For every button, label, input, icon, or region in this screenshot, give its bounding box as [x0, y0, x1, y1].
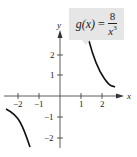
x-tick-label: 1 [79, 99, 84, 109]
function-lhs: g(x) [76, 17, 95, 32]
y-axis-arrow-icon [58, 30, 63, 38]
y-axis-label: y [56, 20, 61, 30]
curve-negative-branch [6, 109, 30, 147]
x-tick-label: 2 [100, 99, 105, 109]
numerator: 8 [108, 11, 118, 24]
fraction: 8 x3 [108, 11, 118, 37]
x-axis: x [4, 91, 131, 101]
denominator-exponent: 3 [113, 24, 117, 32]
label-pointer [82, 40, 90, 45]
denominator: x3 [108, 24, 116, 37]
x-tick-label: −1 [34, 99, 44, 109]
y-axis: y [56, 20, 63, 148]
y-tick-label: −1 [44, 112, 54, 122]
x-axis-arrow-icon [116, 94, 124, 99]
y-tick-label: 1 [50, 70, 55, 80]
curve-positive-branch [89, 41, 115, 87]
equals-sign: = [98, 17, 105, 32]
function-label-box: g(x) = 8 x3 [69, 8, 124, 40]
x-axis-label: x [126, 91, 131, 101]
x-tick-label: −2 [13, 99, 23, 109]
y-tick-label: −2 [44, 133, 54, 143]
y-tick-label: 2 [50, 50, 55, 60]
x-ticks: −2 −1 1 2 [13, 93, 105, 109]
